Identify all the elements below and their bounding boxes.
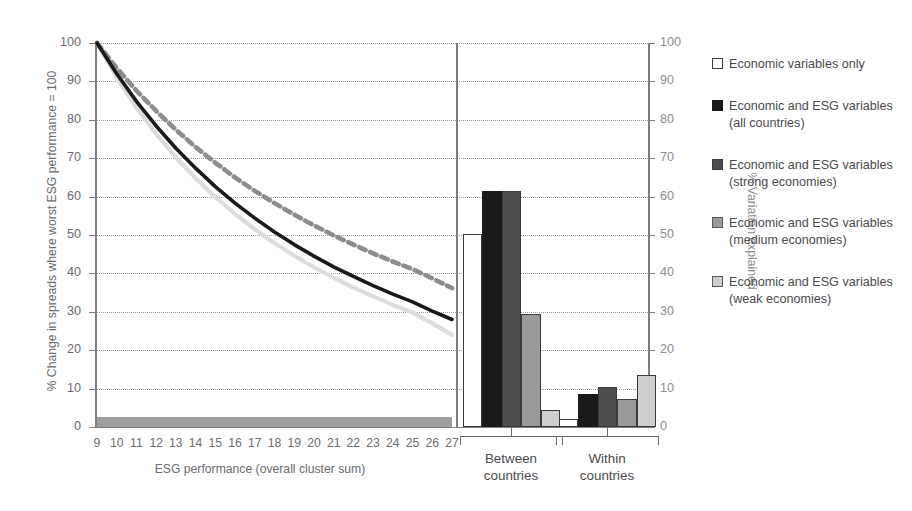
line-series xyxy=(97,43,452,288)
legend-swatch-icon xyxy=(712,100,723,111)
legend-label: Economic and ESG variables (weak economi… xyxy=(729,274,908,308)
legend-label: Economic and ESG variables (medium econo… xyxy=(729,215,908,249)
legend-item[interactable]: Economic variables only xyxy=(712,56,908,73)
bar xyxy=(637,375,656,427)
bar xyxy=(482,191,501,427)
bar xyxy=(559,419,578,427)
legend-swatch-icon xyxy=(712,276,723,287)
bar xyxy=(598,387,617,427)
legend-item[interactable]: Economic and ESG variables (weak economi… xyxy=(712,274,908,308)
bracket-label: Withincountries xyxy=(552,450,662,484)
bar xyxy=(541,410,560,427)
baseline-band xyxy=(97,417,452,427)
line-series xyxy=(97,43,452,319)
legend-swatch-icon xyxy=(712,217,723,228)
legend: Economic variables onlyEconomic and ESG … xyxy=(712,56,908,333)
legend-item[interactable]: Economic and ESG variables (medium econo… xyxy=(712,215,908,249)
bar xyxy=(578,394,597,427)
bracket-label: Betweencountries xyxy=(456,450,566,484)
line-series xyxy=(97,43,452,335)
bar xyxy=(463,234,482,427)
legend-item[interactable]: Economic and ESG variables (all countrie… xyxy=(712,98,908,132)
bar xyxy=(502,191,521,427)
chart-canvas: % Change in spreads where worst ESG perf… xyxy=(0,0,912,511)
legend-label: Economic and ESG variables (strong econo… xyxy=(729,157,908,191)
legend-item[interactable]: Economic and ESG variables (strong econo… xyxy=(712,157,908,191)
bar xyxy=(521,314,540,427)
legend-swatch-icon xyxy=(712,159,723,170)
legend-label: Economic and ESG variables (all countrie… xyxy=(729,98,908,132)
bar xyxy=(617,399,636,427)
legend-label: Economic variables only xyxy=(729,56,865,73)
legend-swatch-icon xyxy=(712,58,723,69)
